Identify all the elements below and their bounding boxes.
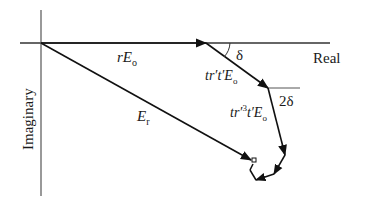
real-axis-label: Real bbox=[313, 50, 341, 66]
phasor-e-r bbox=[41, 43, 251, 160]
two-delta-angle-label: 2δ bbox=[279, 93, 294, 109]
delta-angle-label: δ bbox=[236, 47, 243, 63]
phasor-e-r-label: Er bbox=[136, 108, 150, 127]
phasor-tr3-t-e0-label: tr′3t′Eo bbox=[230, 103, 267, 123]
phasor-r-e0-label: rEo bbox=[117, 49, 137, 68]
delta-angle-arc bbox=[224, 43, 230, 57]
phasor-diagram: Real Imaginary rEo tr′t′Eo δ tr′3t′Eo 2δ… bbox=[0, 0, 387, 198]
imaginary-axis-label: Imaginary bbox=[20, 88, 36, 150]
phasor-tr-t-e0-label: tr′t′Eo bbox=[205, 68, 238, 86]
endpoint-marker bbox=[252, 158, 256, 162]
